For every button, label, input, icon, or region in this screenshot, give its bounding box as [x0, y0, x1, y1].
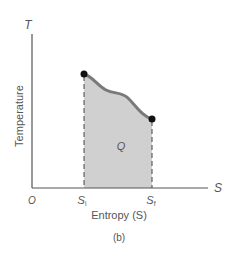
figure-caption: (b)	[113, 232, 125, 243]
x-axis-symbol: S	[214, 181, 222, 195]
heat-label: Q	[117, 140, 126, 152]
y-axis-symbol: T	[24, 18, 33, 32]
initial-state-point	[81, 71, 88, 78]
temperature-entropy-diagram: T Temperature S O Si Sf Q Entropy (S) (b…	[0, 0, 233, 258]
final-entropy-label: Sf	[146, 194, 155, 207]
initial-entropy-label: Si	[78, 194, 87, 207]
heat-area	[84, 74, 152, 188]
y-axis-label: Temperature	[13, 85, 25, 147]
final-state-point	[149, 116, 156, 123]
x-axis-label: Entropy (S)	[91, 209, 147, 221]
origin-label: O	[28, 195, 36, 206]
